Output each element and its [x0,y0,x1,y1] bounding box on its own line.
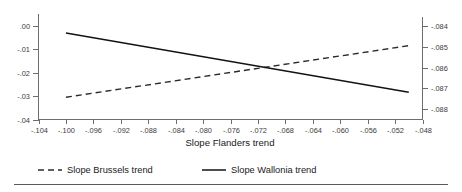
left-tick-label: -.02 [17,69,30,78]
series-line-slope-wallonia-trend [66,33,409,92]
left-axis-ticks: .00-.01-.02-.03-.04 [17,22,38,125]
x-axis-title: Slope Flanders trend [185,137,274,148]
legend-label: Slope Brussels trend [67,165,153,175]
left-tick-label: -.03 [17,92,30,101]
chart-legend: Slope Brussels trendSlope Wallonia trend [38,165,316,175]
series-layer [66,33,409,97]
left-tick-label: .00 [20,22,30,31]
x-tick-label: -.100 [58,126,75,135]
left-tick-label: -.04 [17,116,30,125]
x-tick-label: -.052 [387,126,404,135]
x-tick-label: -.068 [277,126,294,135]
x-tick-label: -.084 [168,126,185,135]
legend-item-1: Slope Wallonia trend [202,165,316,175]
right-tick-label: -.086 [431,64,448,73]
legend-label: Slope Wallonia trend [231,165,316,175]
x-tick-label: -.076 [223,126,240,135]
legend-item-0: Slope Brussels trend [38,165,153,175]
right-tick-label: -.087 [431,84,448,93]
x-axis-ticks: -.104-.100-.096-.092-.088-.084-.080-.076… [31,120,432,136]
x-tick-label: -.092 [113,126,130,135]
right-axis-ticks: -.084-.085-.086-.087-.088 [423,22,448,114]
right-tick-label: -.084 [431,22,448,31]
x-tick-label: -.104 [31,126,48,135]
x-tick-label: -.072 [250,126,267,135]
left-tick-label: -.01 [17,45,30,54]
x-tick-label: -.056 [360,126,377,135]
right-tick-label: -.085 [431,43,448,52]
x-tick-label: -.064 [305,126,322,135]
series-line-slope-brussels-trend [66,46,409,98]
x-tick-label: -.088 [140,126,157,135]
x-tick-label: -.080 [195,126,212,135]
x-tick-label: -.096 [85,126,102,135]
x-tick-label: -.060 [332,126,349,135]
dual-axis-line-chart: .00-.01-.02-.03-.04 -.084-.085-.086-.087… [0,0,462,192]
chart-figure: .00-.01-.02-.03-.04 -.084-.085-.086-.087… [0,0,462,192]
x-tick-label: -.048 [415,126,432,135]
right-tick-label: -.088 [431,105,448,114]
